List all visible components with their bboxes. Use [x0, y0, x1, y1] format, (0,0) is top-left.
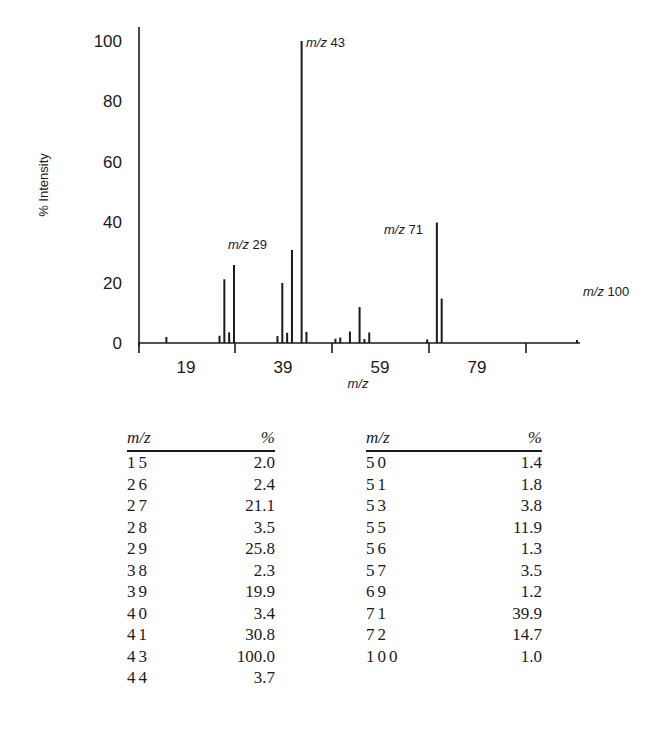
pct-header: %	[528, 428, 542, 450]
pct-cell: 100.0	[237, 646, 275, 668]
pct-cell: 3.7	[254, 667, 275, 689]
pct-cell: 25.8	[245, 538, 275, 560]
table-row: 2721.1	[127, 495, 275, 517]
table-row: 43100.0	[127, 646, 275, 668]
table-left: m/z % 152.0262.42721.1283.52925.8382.339…	[127, 428, 275, 689]
table-header: m/z %	[366, 428, 542, 452]
pct-cell: 3.5	[254, 517, 275, 539]
pct-cell: 1.0	[521, 646, 542, 668]
x-tick-labels: 19395979	[177, 358, 487, 377]
table-row: 3919.9	[127, 581, 275, 603]
peak-annotation: m/z 100	[583, 284, 629, 299]
chart-axes	[139, 27, 580, 346]
x-tick-marks	[139, 343, 526, 353]
mz-cell: 69	[366, 581, 389, 603]
pct-cell: 11.9	[513, 517, 542, 539]
table-row: 262.4	[127, 474, 275, 496]
y-axis-label: % Intensity	[36, 153, 51, 217]
pct-cell: 2.4	[254, 474, 275, 496]
mz-cell: 71	[366, 603, 389, 625]
pct-cell: 1.2	[521, 581, 542, 603]
pct-cell: 1.4	[521, 452, 542, 474]
mz-cell: 15	[127, 452, 150, 474]
mz-cell: 28	[127, 517, 150, 539]
pct-cell: 2.0	[254, 452, 275, 474]
mz-cell: 39	[127, 581, 150, 603]
mz-cell: 29	[127, 538, 150, 560]
x-tick-label: 59	[371, 358, 390, 377]
mz-cell: 51	[366, 474, 389, 496]
table-row: 4130.8	[127, 624, 275, 646]
y-tick-label: 60	[103, 153, 122, 172]
table-row: 382.3	[127, 560, 275, 582]
x-tick-label: 19	[177, 358, 196, 377]
table-row: 691.2	[366, 581, 542, 603]
table-row: 533.8	[366, 495, 542, 517]
pct-cell: 19.9	[245, 581, 275, 603]
table-header: m/z %	[127, 428, 275, 452]
pct-cell: 14.7	[512, 624, 542, 646]
pct-cell: 30.8	[245, 624, 275, 646]
table-row: 152.0	[127, 452, 275, 474]
mz-cell: 50	[366, 452, 389, 474]
pct-header: %	[261, 428, 275, 450]
mz-header: m/z	[127, 428, 151, 450]
y-tick-label: 20	[103, 274, 122, 293]
x-axis-label: m/z	[348, 376, 369, 391]
table-row: 501.4	[366, 452, 542, 474]
table-row: 443.7	[127, 667, 275, 689]
pct-cell: 1.3	[521, 538, 542, 560]
mz-cell: 41	[127, 624, 150, 646]
pct-cell: 3.4	[254, 603, 275, 625]
table-row: 573.5	[366, 560, 542, 582]
y-tick-label: 0	[113, 334, 122, 353]
mz-cell: 26	[127, 474, 150, 496]
table-row: 403.4	[127, 603, 275, 625]
y-tick-label: 80	[103, 92, 122, 111]
mz-header: m/z	[366, 428, 390, 450]
mz-cell: 100	[366, 646, 401, 668]
y-tick-label: 100	[94, 32, 122, 51]
pct-cell: 21.1	[245, 495, 275, 517]
x-tick-label: 39	[274, 358, 293, 377]
pct-cell: 3.5	[521, 560, 542, 582]
table-row: 7214.7	[366, 624, 542, 646]
table-body: 501.4511.8533.85511.9561.3573.5691.27139…	[366, 452, 542, 667]
mass-spectrum-chart: 020406080100 19395979 m/z 43m/z 29m/z 71…	[0, 0, 665, 400]
pct-cell: 1.8	[521, 474, 542, 496]
table-row: 5511.9	[366, 517, 542, 539]
mz-cell: 55	[366, 517, 389, 539]
table-body: 152.0262.42721.1283.52925.8382.33919.940…	[127, 452, 275, 689]
y-tick-labels: 020406080100	[94, 32, 122, 353]
peak-annotations: m/z 43m/z 29m/z 71m/z 100	[228, 35, 629, 299]
peak-annotation: m/z 29	[228, 237, 267, 252]
peak-annotation: m/z 71	[384, 222, 423, 237]
table-row: 511.8	[366, 474, 542, 496]
mz-cell: 44	[127, 667, 150, 689]
x-tick-label: 79	[468, 358, 487, 377]
mz-cell: 57	[366, 560, 389, 582]
pct-cell: 2.3	[254, 560, 275, 582]
table-row: 1001.0	[366, 646, 542, 668]
mz-cell: 40	[127, 603, 150, 625]
spectrum-peaks	[166, 41, 577, 343]
peak-annotation: m/z 43	[306, 35, 345, 50]
mz-cell: 43	[127, 646, 150, 668]
mz-cell: 56	[366, 538, 389, 560]
table-row: 283.5	[127, 517, 275, 539]
table-right: m/z % 501.4511.8533.85511.9561.3573.5691…	[366, 428, 542, 667]
pct-cell: 39.9	[512, 603, 542, 625]
mz-cell: 53	[366, 495, 389, 517]
mz-cell: 27	[127, 495, 150, 517]
table-row: 561.3	[366, 538, 542, 560]
y-tick-label: 40	[103, 213, 122, 232]
table-row: 7139.9	[366, 603, 542, 625]
table-row: 2925.8	[127, 538, 275, 560]
mz-cell: 72	[366, 624, 389, 646]
mz-cell: 38	[127, 560, 150, 582]
pct-cell: 3.8	[521, 495, 542, 517]
